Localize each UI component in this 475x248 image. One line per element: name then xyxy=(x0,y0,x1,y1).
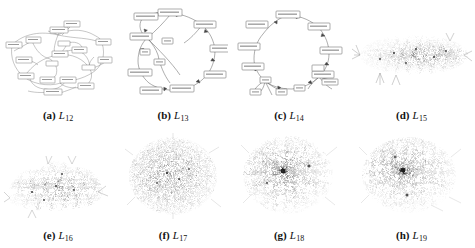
panel-g-label-sub: 18 xyxy=(296,234,304,243)
subfigure-grid: (a)L12 xyxy=(0,0,475,248)
panel-h-tag: (h) xyxy=(396,229,409,241)
graph-hairball-h xyxy=(353,133,471,221)
panel-b-plot xyxy=(116,0,230,107)
panel-h-label: L xyxy=(413,229,419,241)
panel-a[interactable]: (a)L12 xyxy=(0,0,116,128)
panel-d[interactable]: (d)L15 xyxy=(348,0,475,128)
panel-d-label-sub: 15 xyxy=(419,114,427,123)
panel-b-caption: (b)L13 xyxy=(158,107,189,128)
panel-h-plot xyxy=(348,128,475,227)
graph-hairball-g xyxy=(233,133,345,221)
panel-f-label: L xyxy=(173,229,179,241)
panel-f-label-sub: 17 xyxy=(179,234,187,243)
panel-h-label-sub: 19 xyxy=(419,234,427,243)
panel-a-label-sub: 12 xyxy=(65,114,73,123)
panel-d-plot xyxy=(348,0,475,107)
panel-c[interactable]: (c)L14 xyxy=(230,0,348,128)
panel-e-plot xyxy=(0,128,116,227)
graph-ring-b xyxy=(118,5,228,101)
panel-c-label: L xyxy=(289,109,295,121)
panel-e-caption: (e)L16 xyxy=(43,227,73,248)
panel-h-caption: (h)L19 xyxy=(396,227,427,248)
panel-g-label: L xyxy=(290,229,296,241)
panel-h[interactable]: (h)L19 xyxy=(348,128,475,248)
panel-a-plot xyxy=(0,0,116,107)
panel-f[interactable]: (f)L17 xyxy=(116,128,230,248)
panel-c-caption: (c)L14 xyxy=(274,107,304,128)
panel-c-label-sub: 14 xyxy=(296,114,304,123)
panel-b-label-sub: 13 xyxy=(180,114,188,123)
graph-hairball-f xyxy=(119,133,227,221)
panel-e-label-sub: 16 xyxy=(65,234,73,243)
panel-a-label: L xyxy=(59,109,65,121)
panel-g-caption: (g)L18 xyxy=(274,227,304,248)
panel-e-tag: (e) xyxy=(43,229,55,241)
panel-c-plot xyxy=(230,0,348,107)
panel-a-tag: (a) xyxy=(43,109,56,121)
graph-ring-c xyxy=(232,5,346,101)
figure-row-bottom: (e)L16 xyxy=(0,128,475,248)
panel-d-tag: (d) xyxy=(396,109,409,121)
graph-sparse-labeled-a xyxy=(2,7,114,99)
panel-b[interactable]: (b)L13 xyxy=(116,0,230,128)
panel-a-caption: (a)L12 xyxy=(43,107,73,128)
panel-d-label: L xyxy=(413,109,419,121)
figure-row-top: (a)L12 xyxy=(0,0,475,128)
panel-f-caption: (f)L17 xyxy=(159,227,187,248)
panel-d-caption: (d)L15 xyxy=(396,107,427,128)
panel-f-tag: (f) xyxy=(159,229,170,241)
panel-g[interactable]: (g)L18 xyxy=(230,128,348,248)
panel-g-tag: (g) xyxy=(274,229,287,241)
panel-f-plot xyxy=(116,128,230,227)
panel-c-tag: (c) xyxy=(274,109,286,121)
panel-g-plot xyxy=(230,128,348,227)
graph-mesh-e xyxy=(2,134,114,220)
graph-mesh-d xyxy=(350,11,474,95)
panel-e-label: L xyxy=(58,229,64,241)
panel-e[interactable]: (e)L16 xyxy=(0,128,116,248)
panel-b-tag: (b) xyxy=(158,109,171,121)
